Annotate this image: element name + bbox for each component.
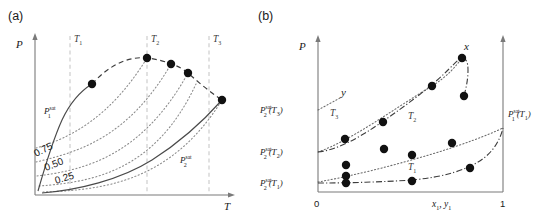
figure-container: (a) P T T1 T2 T3 <box>0 0 551 219</box>
panel-b-xlabel-y-sub: 1 <box>448 205 451 211</box>
svg-text:T3: T3 <box>330 108 338 120</box>
panel-a-y-arrowhead <box>32 33 37 40</box>
panel-b-point-t2-bubble-1 <box>342 161 350 169</box>
panel-a-data-points <box>88 54 226 104</box>
svg-text:T2: T2 <box>151 34 159 46</box>
panel-b-t2-dew-curve <box>318 58 462 152</box>
panel-a-p2sat-sup: sat <box>186 154 193 160</box>
panel-b-right-arrowhead <box>500 35 505 42</box>
panel-a-isotherm-label-t3: T3 <box>213 34 221 46</box>
panel-b-left-label-p2sat-t3: Psat2(T3) <box>259 104 283 118</box>
panel-a-contour-label-050: 0.50 <box>43 155 66 173</box>
svg-text:T3: T3 <box>213 34 221 46</box>
panel-a-p1sat-label: Psat1 <box>43 105 56 119</box>
panel-a-p2sat-label: Psat2 <box>179 154 192 168</box>
panel-b-isotherm-label-t3: T3 <box>330 108 338 120</box>
panel-b-p2sat-t3-sub: 2 <box>264 112 267 118</box>
panel-a-contour-labels: 0.75 0.50 0.25 <box>32 140 76 186</box>
panel-b-left-label-p2sat-t2: Psat2(T2) <box>259 146 283 160</box>
panel-b-t3-sub: 3 <box>335 114 338 120</box>
panel-b-tag: (b) <box>258 9 273 23</box>
panel-b-t3-segment <box>318 98 340 110</box>
panel-a-t3-sub: 3 <box>218 40 221 46</box>
panel-b-p1sat-t1-sub: 1 <box>512 116 515 122</box>
panel-a-contour-label-025: 0.25 <box>53 170 75 186</box>
panel-a: (a) P T T1 T2 T3 <box>8 9 235 212</box>
panel-a-point-3 <box>167 60 175 68</box>
panel-a-azeotrope-locus <box>92 58 222 100</box>
panel-a-point-4 <box>184 69 192 77</box>
panel-b-isotherm-label-t1: T1 <box>408 162 416 174</box>
panel-a-t2-sub: 2 <box>156 40 159 46</box>
panel-a-p2sat-sub: 2 <box>184 162 187 168</box>
panel-a-p1sat-sub: 1 <box>48 113 51 119</box>
panel-b-point-t1-dew-2 <box>408 151 416 159</box>
panel-b-x-axis-label: x1, y1 <box>431 199 451 211</box>
panel-a-isotherm-lines <box>70 36 209 195</box>
panel-a-point-5 <box>218 96 226 104</box>
panel-a-tag: (a) <box>8 9 23 23</box>
panel-b-p2sat-t1-argend: ) <box>279 178 283 188</box>
svg-text:Psat1: Psat1 <box>43 105 56 119</box>
panel-a-isotherm-label-t2: T2 <box>151 34 159 46</box>
svg-text:T2: T2 <box>408 111 416 123</box>
svg-text:Psat2(T1): Psat2(T1) <box>259 177 283 191</box>
panel-b-xtick-1: 1 <box>500 198 505 209</box>
panel-b-t2-bubble-curve <box>318 58 468 152</box>
panel-a-y-axis-label: P <box>15 38 23 50</box>
panel-b-p2sat-t3-argend: ) <box>279 105 283 115</box>
panel-b-p2sat-t2-argend: ) <box>279 147 283 157</box>
svg-text:T1: T1 <box>408 162 416 174</box>
panel-a-t1-sub: 1 <box>79 40 82 46</box>
svg-text:Psat1(T1): Psat1(T1) <box>507 108 531 122</box>
panel-b: (b) P <box>258 9 531 211</box>
panel-a-point-2 <box>143 54 151 62</box>
panel-b-y-axis-label: P <box>298 40 306 52</box>
svg-text:x1, y1: x1, y1 <box>431 199 451 211</box>
panel-b-label-x: x <box>463 40 469 52</box>
panel-a-isopleth-075 <box>36 58 147 148</box>
panel-b-point-t2-dew-3 <box>428 82 436 90</box>
svg-text:T1: T1 <box>74 34 82 46</box>
panel-b-t1-sub: 1 <box>413 168 416 174</box>
panel-a-p1sat-sup: sat <box>50 105 57 111</box>
panel-b-point-azeotrope-t2 <box>458 54 466 62</box>
panel-a-isopleth-extra-1 <box>39 84 196 186</box>
panel-b-right-label-p1sat-t1: Psat1(T1) <box>507 108 531 122</box>
panel-b-y-arrowhead <box>315 35 320 42</box>
panel-b-point-t2-dew-1 <box>341 135 349 143</box>
panel-b-point-t2-bubble-2 <box>380 145 388 153</box>
panel-a-isopleth-050 <box>36 64 171 162</box>
panel-a-isotherm-label-t1: T1 <box>74 34 82 46</box>
panel-b-label-y: y <box>340 86 346 98</box>
panel-b-point-t1-dew-3 <box>448 139 456 147</box>
panel-b-point-t2-bubble-3 <box>460 92 468 100</box>
panel-b-p2sat-t1-sub: 2 <box>264 185 267 191</box>
panel-b-point-t2-dew-2 <box>379 118 387 126</box>
panel-a-x-axis-label: T <box>224 200 231 212</box>
panel-b-p2sat-t2-sub: 2 <box>264 154 267 160</box>
panel-a-point-1 <box>88 80 96 88</box>
panel-b-isotherm-label-t2: T2 <box>408 111 416 123</box>
panel-b-p1sat-t1-argend: ) <box>527 109 531 119</box>
two-panel-thermodynamics-figure: (a) P T T1 T2 T3 <box>0 0 551 219</box>
panel-b-point-t1-bubble-2 <box>408 177 416 185</box>
panel-b-point-t1-bubble-3 <box>466 164 474 172</box>
panel-b-xtick-0: 0 <box>314 198 319 209</box>
panel-b-left-label-p2sat-t1: Psat2(T1) <box>259 177 283 191</box>
svg-text:Psat2(T2): Psat2(T2) <box>259 146 283 160</box>
svg-text:Psat2(T3): Psat2(T3) <box>259 104 283 118</box>
panel-b-t2-sub: 2 <box>413 117 416 123</box>
panel-a-x-arrowhead <box>228 192 235 197</box>
panel-b-point-t1-bubble-1 <box>342 179 350 187</box>
svg-text:Psat2: Psat2 <box>179 154 192 168</box>
